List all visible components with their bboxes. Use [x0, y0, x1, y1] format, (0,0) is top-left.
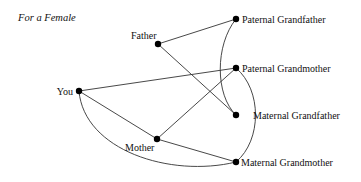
label-father: Father — [131, 30, 157, 41]
label-mother: Mother — [125, 142, 155, 153]
diagram-canvas: For a Female YouFatherMotherPaternal Gra… — [0, 0, 361, 182]
node-mother — [154, 136, 160, 142]
node-mgm — [233, 159, 239, 165]
edge-father-mgf — [158, 44, 236, 115]
edges-group — [79, 19, 256, 166]
node-you — [76, 88, 82, 94]
edge-you-pgm — [79, 68, 236, 91]
node-pgm — [233, 65, 239, 71]
node-mgf — [233, 112, 239, 118]
edge-mother-mgm — [157, 139, 236, 162]
nodes-group — [76, 16, 239, 165]
node-pgf — [233, 16, 239, 22]
label-mgf: Maternal Grandfather — [253, 110, 341, 121]
family-diagram: For a Female YouFatherMotherPaternal Gra… — [0, 0, 361, 182]
edge-father-pgf — [158, 19, 236, 44]
label-mgm: Maternal Grandmother — [241, 157, 334, 168]
edge-you-mother — [79, 91, 157, 139]
label-you: You — [57, 86, 73, 97]
label-pgm: Paternal Grandmother — [242, 63, 331, 74]
diagram-title: For a Female — [17, 12, 76, 23]
label-pgf: Paternal Grandfather — [242, 14, 326, 25]
labels-group: YouFatherMotherPaternal GrandfatherPater… — [57, 14, 341, 168]
node-father — [155, 41, 161, 47]
